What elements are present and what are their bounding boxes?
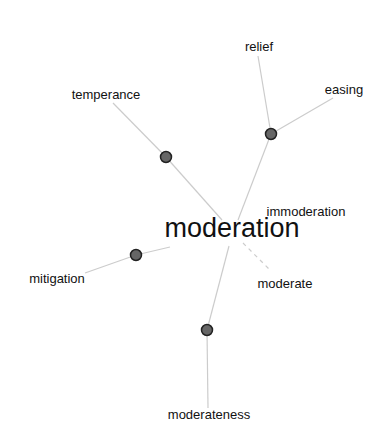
- center-word: moderation: [164, 213, 299, 244]
- label-mitigation[interactable]: mitigation: [29, 271, 85, 286]
- graph-node: [202, 325, 213, 336]
- graph-node: [266, 129, 277, 140]
- label-easing[interactable]: easing: [325, 82, 363, 97]
- label-moderateness[interactable]: moderateness: [168, 407, 250, 422]
- label-moderate[interactable]: moderate: [258, 276, 313, 291]
- graph-node: [131, 250, 142, 261]
- graph-node: [161, 152, 172, 163]
- label-relief[interactable]: relief: [245, 39, 273, 54]
- label-temperance[interactable]: temperance: [72, 87, 141, 102]
